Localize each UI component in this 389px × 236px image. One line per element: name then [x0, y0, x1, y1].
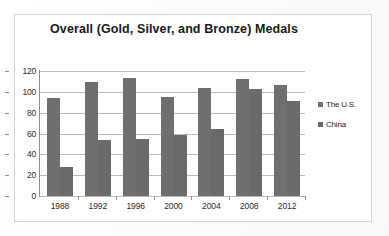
x-axis-tick-label: 2008 — [229, 201, 269, 211]
x-axis-tick-mark — [116, 196, 117, 200]
bar-us — [85, 82, 98, 196]
bar-us — [274, 85, 287, 196]
bar-group — [161, 71, 187, 196]
y-axis-tick-mark — [5, 154, 9, 155]
y-axis-tick-mark — [5, 92, 9, 93]
bar-group — [236, 71, 262, 196]
x-axis-tick-mark — [229, 196, 230, 200]
y-axis-tick-label: 80 — [10, 108, 36, 118]
y-axis-tick-mark — [5, 175, 9, 176]
chart-screenshot: Overall (Gold, Silver, and Bronze) Medal… — [0, 0, 389, 236]
legend-label: China — [326, 120, 346, 129]
bar-china — [60, 167, 73, 196]
bar-us — [47, 98, 60, 196]
gridline — [40, 196, 305, 197]
x-axis-tick-label: 1996 — [116, 201, 156, 211]
y-axis-tick-label: 100 — [10, 87, 36, 97]
x-axis-tick-mark — [191, 196, 192, 200]
legend-label: The U.S. — [326, 100, 356, 109]
legend-swatch-icon — [318, 122, 323, 127]
y-axis-tick-label: 20 — [10, 170, 36, 180]
y-axis-tick-label: 0 — [10, 191, 36, 201]
legend-item[interactable]: The U.S. — [318, 100, 380, 109]
x-axis-tick-label: 1992 — [78, 201, 118, 211]
bar-us — [161, 97, 174, 196]
y-axis-tick-label: 60 — [10, 129, 36, 139]
y-axis-tick-mark — [5, 71, 9, 72]
y-axis-tick-mark — [5, 134, 9, 135]
chart-legend: The U.S.China — [318, 100, 380, 140]
y-axis-tick-mark — [5, 196, 9, 197]
bar-china — [287, 101, 300, 196]
bar-us — [123, 78, 136, 196]
x-axis-tick-mark — [305, 196, 306, 200]
y-axis-tick-label: 40 — [10, 149, 36, 159]
chart-title: Overall (Gold, Silver, and Bronze) Medal… — [24, 22, 324, 36]
x-axis-tick-label: 2004 — [191, 201, 231, 211]
x-axis-tick-mark — [267, 196, 268, 200]
bar-group — [274, 71, 300, 196]
plot-area — [40, 71, 305, 196]
y-axis-tick-labels: 020406080100120 — [8, 71, 36, 196]
bar-china — [98, 140, 111, 196]
y-axis-tick-label: 120 — [10, 66, 36, 76]
bar-china — [249, 89, 262, 196]
x-axis-tick-label: 2012 — [267, 201, 307, 211]
x-axis-tick-mark — [78, 196, 79, 200]
bar-china — [136, 139, 149, 196]
bar-group — [85, 71, 111, 196]
legend-item[interactable]: China — [318, 120, 380, 129]
bar-group — [198, 71, 224, 196]
bar-group — [123, 71, 149, 196]
x-axis-tick-mark — [154, 196, 155, 200]
x-axis-tick-label: 2000 — [154, 201, 194, 211]
bar-china — [174, 135, 187, 196]
y-axis-tick-mark — [5, 113, 9, 114]
legend-swatch-icon — [318, 102, 323, 107]
x-axis-tick-label: 1988 — [40, 201, 80, 211]
bar-group — [47, 71, 73, 196]
bar-us — [198, 88, 211, 196]
bar-us — [236, 79, 249, 196]
bar-china — [211, 129, 224, 196]
